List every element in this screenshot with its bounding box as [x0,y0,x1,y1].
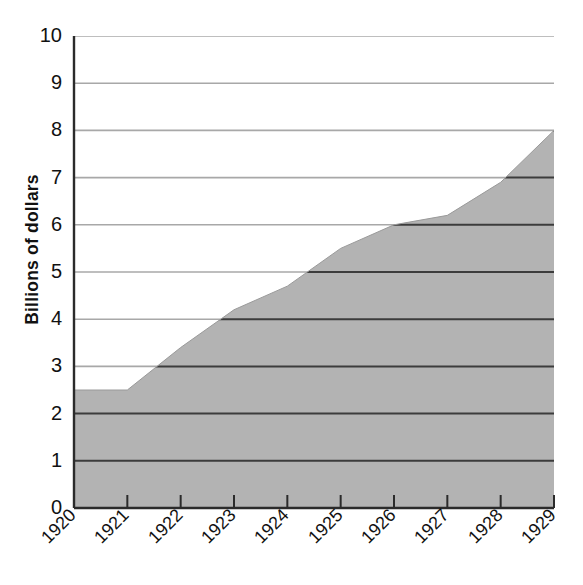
y-axis-tick-label: 9 [22,72,62,92]
y-axis-tick-label: 3 [22,355,62,375]
y-axis-tick-label: 7 [22,167,62,187]
y-axis-tick-label: 1 [22,450,62,470]
chart-plot-area [0,0,583,585]
area-chart: Billions of dollars 012345678910 1920192… [0,0,583,585]
y-axis-tick-label: 4 [22,308,62,328]
y-axis-tick-label: 10 [22,25,62,45]
y-axis-tick-label: 2 [22,403,62,423]
y-axis-tick-label: 5 [22,261,62,281]
y-axis-tick-label: 6 [22,214,62,234]
y-axis-tick-label: 8 [22,119,62,139]
